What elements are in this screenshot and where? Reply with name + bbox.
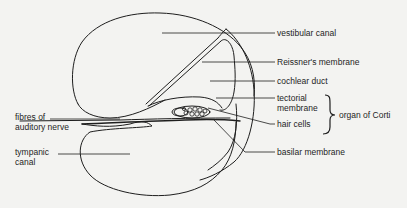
hair-cells-cluster [182, 107, 207, 116]
leader-hair-cells [208, 108, 275, 124]
outer-right-wall [200, 29, 254, 180]
tympanic-canal-outline [80, 122, 236, 196]
reissners-membrane [146, 38, 221, 106]
label-reissners-membrane: Reissner's membrane [277, 57, 359, 67]
vestibular-canal-outline [72, 13, 254, 104]
cochlea-diagram: Cross-section of the cochlea [0, 0, 407, 208]
label-vestibular-canal: vestibular canal [277, 28, 336, 38]
label-fibres-of-auditory-nerve-line1: fibres of [15, 112, 45, 122]
label-cochlear-duct: cochlear duct [277, 76, 328, 86]
cochlea-drawing [0, 0, 407, 208]
organ-of-corti-brace [323, 95, 335, 134]
label-tympanic-canal-line1: tympanic [15, 147, 49, 157]
label-basilar-membrane: basilar membrane [277, 147, 345, 157]
label-tympanic-canal-line2: canal [15, 157, 35, 167]
label-tectorial-membrane-line1: tectorial [277, 93, 307, 103]
cochlear-duct-outline [220, 39, 235, 110]
label-tectorial-membrane-line2: membrane [277, 103, 318, 113]
label-hair-cells: hair cells [277, 119, 311, 129]
label-fibres-of-auditory-nerve-line2: auditory nerve [15, 122, 69, 132]
label-organ-of-corti: organ of Corti [339, 110, 391, 120]
